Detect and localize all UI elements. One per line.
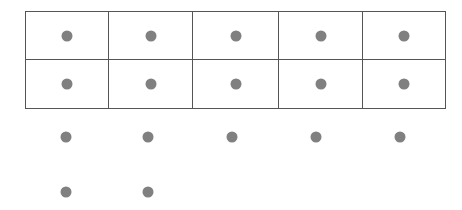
grid-cell[interactable] bbox=[26, 60, 109, 109]
table-row bbox=[26, 12, 446, 60]
grid-cell[interactable] bbox=[109, 12, 193, 60]
grid-cell[interactable] bbox=[363, 60, 446, 109]
dot-marker-icon bbox=[399, 79, 410, 90]
table-row bbox=[26, 60, 446, 109]
dot-marker-icon bbox=[395, 132, 406, 143]
bordered-dot-grid-body bbox=[26, 12, 446, 109]
grid-cell[interactable] bbox=[363, 12, 446, 60]
dot-marker-icon bbox=[61, 187, 72, 198]
dot-marker-icon bbox=[399, 30, 410, 41]
dot-marker-icon bbox=[311, 132, 322, 143]
bordered-dot-grid bbox=[25, 11, 446, 109]
grid-cell[interactable] bbox=[193, 12, 279, 60]
dot-marker-icon bbox=[227, 132, 238, 143]
dot-marker-icon bbox=[62, 79, 73, 90]
grid-cell[interactable] bbox=[279, 12, 363, 60]
dot-marker-icon bbox=[145, 30, 156, 41]
diagram-canvas bbox=[0, 0, 462, 210]
dot-marker-icon bbox=[143, 187, 154, 198]
dot-marker-icon bbox=[143, 132, 154, 143]
dot-marker-icon bbox=[315, 79, 326, 90]
dot-marker-icon bbox=[62, 30, 73, 41]
grid-cell[interactable] bbox=[279, 60, 363, 109]
grid-cell[interactable] bbox=[193, 60, 279, 109]
dot-marker-icon bbox=[230, 30, 241, 41]
dot-marker-icon bbox=[61, 132, 72, 143]
grid-cell[interactable] bbox=[26, 12, 109, 60]
dot-marker-icon bbox=[230, 79, 241, 90]
dot-marker-icon bbox=[315, 30, 326, 41]
grid-cell[interactable] bbox=[109, 60, 193, 109]
dot-marker-icon bbox=[145, 79, 156, 90]
